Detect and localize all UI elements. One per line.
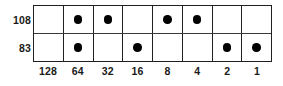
bit-dot	[104, 15, 113, 24]
row-value-label-1: 83	[0, 43, 31, 54]
place-value-label-4: 4	[182, 64, 212, 80]
bit-dot	[133, 43, 142, 52]
bit-cell-1-1[interactable]	[242, 34, 271, 61]
bit-cell-0-1[interactable]	[242, 6, 271, 33]
bit-cell-1-2[interactable]	[213, 34, 243, 61]
bit-cell-0-16[interactable]	[123, 6, 153, 33]
bit-dot	[74, 43, 83, 52]
bit-dot	[193, 15, 202, 24]
bit-dot	[163, 15, 172, 24]
bit-row-1	[34, 34, 271, 61]
bit-cell-1-128[interactable]	[34, 34, 64, 61]
place-value-label-64: 64	[63, 64, 93, 80]
bit-cell-0-8[interactable]	[153, 6, 183, 33]
bit-cell-1-64[interactable]	[64, 34, 94, 61]
place-value-label-16: 16	[123, 64, 153, 80]
bit-cell-1-32[interactable]	[94, 34, 124, 61]
bit-dot	[252, 43, 261, 52]
bit-cell-0-128[interactable]	[34, 6, 64, 33]
bit-cell-0-4[interactable]	[183, 6, 213, 33]
place-value-header-row: 128 64 32 16 8 4 2 1	[33, 64, 272, 80]
row-value-label-0: 108	[0, 15, 31, 26]
bit-cell-1-16[interactable]	[123, 34, 153, 61]
bit-row-0	[34, 6, 271, 34]
bit-cell-0-32[interactable]	[94, 6, 124, 33]
place-value-label-128: 128	[33, 64, 63, 80]
bit-dot	[223, 43, 232, 52]
place-value-label-2: 2	[212, 64, 242, 80]
bit-cell-1-8[interactable]	[153, 34, 183, 61]
bit-dot	[74, 15, 83, 24]
bit-cell-1-4[interactable]	[183, 34, 213, 61]
binary-place-value-figure: 108 83	[0, 0, 283, 86]
bit-cell-0-2[interactable]	[213, 6, 243, 33]
place-value-label-32: 32	[93, 64, 123, 80]
bit-cell-0-64[interactable]	[64, 6, 94, 33]
place-value-label-8: 8	[153, 64, 183, 80]
place-value-label-1: 1	[242, 64, 272, 80]
bit-grid	[33, 5, 272, 62]
